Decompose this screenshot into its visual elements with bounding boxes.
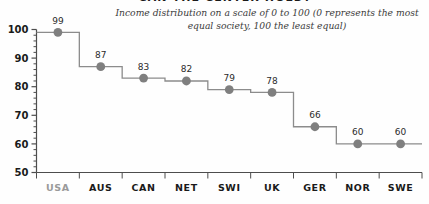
- data-point-value-label: 99: [52, 16, 64, 26]
- value-labels: 998783827978666060: [52, 16, 406, 138]
- y-tick-label: 100: [8, 24, 29, 35]
- data-point-value-label: 83: [138, 62, 149, 72]
- y-tick-label: 50: [15, 167, 29, 178]
- category-label-swe: SWE: [388, 182, 414, 193]
- data-point-marker: [353, 140, 362, 149]
- data-point-marker: [225, 85, 234, 94]
- category-label-swi: SWI: [218, 182, 241, 193]
- category-labels: USAAUSCANNETSWIUKGERNORSWE: [46, 182, 413, 193]
- data-point-value-label: 78: [266, 76, 278, 86]
- data-point-value-label: 82: [181, 64, 192, 74]
- category-label-net: NET: [175, 182, 198, 193]
- x-axis: [37, 173, 423, 179]
- data-point-value-label: 79: [224, 73, 236, 83]
- category-label-aus: AUS: [89, 182, 112, 193]
- y-axis: 1009080706050: [8, 24, 37, 178]
- data-point-marker: [139, 74, 148, 83]
- chart-container: CAN THE CENTER HOLD? Income distribution…: [0, 0, 429, 204]
- data-point-value-label: 87: [95, 50, 106, 60]
- data-point-marker: [96, 62, 105, 71]
- data-point-marker: [182, 77, 191, 86]
- data-point-marker: [396, 140, 405, 149]
- data-point-marker: [268, 88, 277, 97]
- chart-plot-area: 1009080706050 998783827978666060 USAAUSC…: [0, 0, 429, 204]
- category-label-can: CAN: [132, 182, 156, 193]
- category-label-uk: UK: [264, 182, 280, 193]
- y-tick-label: 90: [15, 53, 29, 64]
- y-tick-label: 80: [15, 81, 29, 92]
- data-point-value-label: 66: [309, 110, 321, 120]
- y-tick-label: 60: [15, 139, 29, 150]
- data-point-marker: [311, 122, 320, 131]
- category-label-nor: NOR: [345, 182, 370, 193]
- category-label-usa: USA: [46, 182, 70, 193]
- y-tick-label: 70: [15, 110, 29, 121]
- category-label-ger: GER: [303, 182, 326, 193]
- data-point-value-label: 60: [395, 127, 407, 137]
- data-point-marker: [54, 28, 63, 37]
- data-point-value-label: 60: [352, 127, 364, 137]
